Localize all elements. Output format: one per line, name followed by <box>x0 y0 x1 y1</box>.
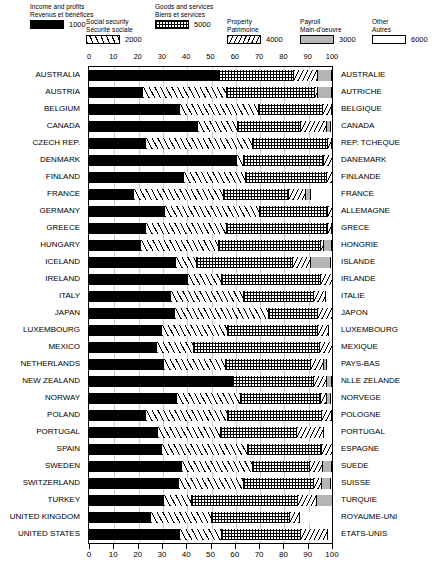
country-label-fr: GRECE <box>341 223 369 232</box>
legend-title-fr-goods: Biens et services <box>155 11 213 19</box>
bar-segment-6000 <box>310 189 332 200</box>
bar-segment-1000 <box>89 240 140 251</box>
axis-tick-label-90: 90 <box>303 550 312 559</box>
bar-segment-2000 <box>183 172 245 183</box>
bar-segment-2000 <box>174 308 268 319</box>
legend-item-other: OtherAutres6000 <box>372 18 428 44</box>
bar-segment-2000 <box>156 342 194 353</box>
bar-segment-1000 <box>89 308 174 319</box>
bar-segment-3000 <box>317 70 330 81</box>
axis-tick-mark-70 <box>259 544 260 549</box>
bar-row <box>89 308 332 319</box>
bar-segment-5000 <box>221 529 300 540</box>
bar-row <box>89 342 332 353</box>
legend-tick-10: 10 <box>109 52 117 61</box>
country-label-fr: REP. TCHEQUE <box>341 138 400 147</box>
legend-tick-20: 20 <box>133 52 141 61</box>
country-label-fr: AUTRICHE <box>341 87 382 96</box>
axis-tick-mark-90 <box>308 544 309 549</box>
country-label-en: SPAIN <box>57 444 80 453</box>
bar-segment-4000 <box>317 308 332 319</box>
bar-segment-1000 <box>89 410 145 421</box>
country-label-fr: IRLANDE <box>341 274 376 283</box>
legend-code-income: 1000 <box>69 20 86 29</box>
bar-segment-4000 <box>313 376 326 387</box>
legend-item-goods: Goods and servicesBiens et services5000 <box>155 3 213 29</box>
bar-segment-1000 <box>89 274 187 285</box>
bar-segment-4000 <box>326 172 332 183</box>
bar-segment-2000 <box>145 410 228 421</box>
bar-segment-2000 <box>179 529 222 540</box>
axis-tick-label-60: 60 <box>230 550 239 559</box>
bar-segment-5000 <box>221 274 319 285</box>
legend-title-en-payroll: Payroll <box>300 18 356 26</box>
bar-segment-6000 <box>325 291 332 302</box>
axis-tick-label-30: 30 <box>157 550 166 559</box>
legend-swatch-row-goods: 5000 <box>155 20 213 29</box>
country-label-fr: MEXIQUE <box>341 342 378 351</box>
country-labels-english: AUSTRALIAAUSTRIABELGIUMCANADACZECH REP.D… <box>0 66 84 544</box>
bar-segment-2000 <box>236 155 243 166</box>
bar-segment-5000 <box>191 495 297 506</box>
bar-segment-2000 <box>163 495 191 506</box>
bar-segment-2000 <box>142 87 226 98</box>
country-label-fr: TURQUIE <box>341 495 377 504</box>
country-label-en: POLAND <box>47 410 80 419</box>
country-label-en: ITALY <box>59 291 80 300</box>
legend-tick-50: 50 <box>206 52 214 61</box>
bar-row <box>89 359 332 370</box>
legend-swatch-property <box>227 35 261 44</box>
legend-title-en-goods: Goods and services <box>155 3 213 11</box>
bar-segment-1000 <box>89 104 179 115</box>
bar-row <box>89 478 332 489</box>
country-label-fr: DANEMARK <box>341 155 386 164</box>
axis-tick-mark-10 <box>113 544 114 549</box>
bar-segment-4000 <box>322 104 331 115</box>
legend-title-en-other: Other <box>372 18 428 26</box>
bar-segment-6000 <box>331 70 332 81</box>
bar-row <box>89 393 332 404</box>
bar-segment-5000 <box>196 257 292 268</box>
bar-segment-5000 <box>268 308 318 319</box>
legend-item-payroll: PayrollMain-d'oeuvre3000 <box>300 18 356 44</box>
country-label-fr: FRANCE <box>341 189 374 198</box>
bar-segment-5000 <box>218 70 293 81</box>
bar-segment-2000 <box>175 257 196 268</box>
bar-segment-5000 <box>247 444 321 455</box>
bar-segment-4000 <box>313 478 322 489</box>
bar-segment-2000 <box>178 478 244 489</box>
bar-row <box>89 274 332 285</box>
bar-segment-1000 <box>89 529 179 540</box>
bar-segment-4000 <box>313 291 325 302</box>
bar-row <box>89 325 332 336</box>
legend-swatch-row-property: 4000 <box>227 35 283 44</box>
bar-row <box>89 427 332 438</box>
legend-title-fr-payroll: Main-d'oeuvre <box>300 26 356 34</box>
bar-segment-4000 <box>288 189 305 200</box>
country-label-fr: ROYAUME-UNI <box>341 512 397 521</box>
country-label-fr: ESPAGNE <box>341 444 379 453</box>
bar-segment-1000 <box>89 291 170 302</box>
country-label-fr: FINLANDE <box>341 172 381 181</box>
bar-segment-5000 <box>226 223 327 234</box>
legend-tick-80: 80 <box>279 52 287 61</box>
country-labels-french: AUSTRALIEAUTRICHEBELGIQUECANADAREP. TCHE… <box>336 66 442 544</box>
country-label-en: FRANCE <box>47 189 80 198</box>
bar-segment-6000 <box>331 240 332 251</box>
legend-code-social: 2000 <box>125 35 142 44</box>
legend-swatch-row-social: 2000 <box>86 35 142 44</box>
country-label-en: JAPAN <box>55 308 80 317</box>
legend-title-en-income: Income and profits <box>30 3 94 11</box>
country-label-fr: SUISSE <box>341 478 370 487</box>
bar-row <box>89 257 332 268</box>
country-label-en: UNITED KINGDOM <box>10 512 80 521</box>
bar-row <box>89 70 332 81</box>
stacked-bars <box>89 67 332 543</box>
bar-segment-2000 <box>150 512 211 523</box>
bar-segment-1000 <box>89 376 232 387</box>
bar-segment-1000 <box>89 461 181 472</box>
bar-segment-4000 <box>293 70 317 81</box>
axis-tick-mark-100 <box>332 544 333 549</box>
country-label-en: LUXEMBOURG <box>23 325 80 334</box>
bar-segment-1000 <box>89 206 164 217</box>
